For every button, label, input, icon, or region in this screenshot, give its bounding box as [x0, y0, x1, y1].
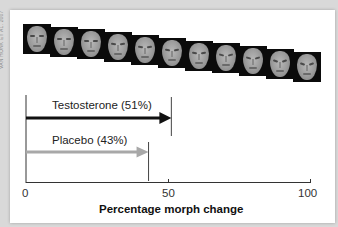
testosterone-arrow-head	[159, 112, 171, 124]
x-tick-label-100: 100	[298, 187, 317, 199]
testosterone-label: Testosterone (51%)	[52, 99, 152, 111]
x-tick-label-0: 0	[22, 187, 28, 199]
placebo-arrow-head	[137, 147, 149, 158]
x-tick-label-50: 50	[162, 187, 175, 199]
x-axis-title: Percentage morph change	[99, 203, 243, 215]
placebo-label: Placebo (43%)	[52, 134, 127, 146]
